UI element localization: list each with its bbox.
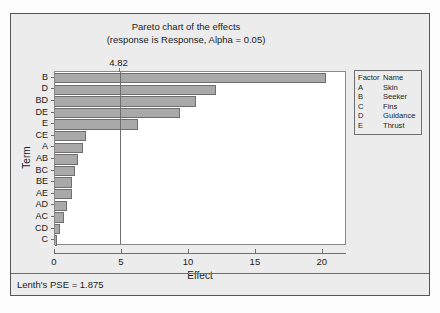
- chart-title: Pareto chart of the effects: [11, 20, 361, 33]
- legend-row-c: CFins: [355, 102, 421, 112]
- y-tick-label-a: A: [42, 141, 48, 151]
- legend-header-name: Name: [383, 73, 418, 83]
- bar-ab[interactable]: [55, 154, 78, 164]
- y-tick-label-c: C: [42, 234, 49, 244]
- x-tick-mark: [322, 249, 323, 253]
- bar-row: [55, 142, 345, 154]
- x-tick-mark: [188, 249, 189, 253]
- plot-area: [54, 71, 346, 245]
- y-tick-label-b: B: [42, 72, 48, 82]
- bars-layer: [55, 72, 345, 244]
- bar-row: [55, 165, 345, 177]
- bar-a[interactable]: [55, 143, 83, 153]
- legend-factor-code: B: [358, 92, 383, 102]
- bar-row: [55, 95, 345, 107]
- chart-subtitle: (response is Response, Alpha = 0.05): [11, 33, 361, 46]
- bar-row: [55, 107, 345, 119]
- bar-row: [55, 200, 345, 212]
- bar-ad[interactable]: [55, 201, 67, 211]
- legend-row-d: DGuidance: [355, 111, 421, 121]
- bar-row: [55, 153, 345, 165]
- bar-bd[interactable]: [55, 96, 196, 106]
- bar-row: [55, 234, 345, 246]
- bar-b[interactable]: [55, 73, 326, 83]
- legend-header-factor: Factor: [358, 73, 383, 83]
- legend-factor-name: Guidance: [383, 111, 418, 121]
- factor-legend: Factor Name ASkinBSeekerCFinsDGuidanceET…: [354, 70, 422, 135]
- y-tick-label-bc: BC: [35, 165, 48, 175]
- y-tick-label-ce: CE: [35, 130, 48, 140]
- bar-be[interactable]: [55, 177, 72, 187]
- y-tick-label-ab: AB: [36, 153, 48, 163]
- y-tick-label-bd: BD: [35, 95, 48, 105]
- bar-row: [55, 84, 345, 96]
- x-tick-mark: [255, 249, 256, 253]
- x-tick-label-0: 0: [51, 256, 56, 267]
- bar-bc[interactable]: [55, 166, 75, 176]
- bar-row: [55, 130, 345, 142]
- legend-factor-code: D: [358, 111, 383, 121]
- bar-ce[interactable]: [55, 131, 86, 141]
- y-axis-tick-group: BDBDDEECEAABBCBEAEADACCDC: [11, 71, 54, 245]
- legend-row-a: ASkin: [355, 83, 421, 93]
- y-tick-label-de: DE: [35, 107, 48, 117]
- bar-cd[interactable]: [55, 224, 60, 234]
- bar-d[interactable]: [55, 85, 216, 95]
- legend-factor-name: Fins: [383, 102, 418, 112]
- legend-row-group: ASkinBSeekerCFinsDGuidanceEThrust: [355, 83, 421, 131]
- legend-factor-code: A: [358, 83, 383, 93]
- bar-row: [55, 72, 345, 84]
- bar-row: [55, 176, 345, 188]
- bar-row: [55, 223, 345, 235]
- legend-factor-name: Thrust: [383, 121, 418, 131]
- bar-ac[interactable]: [55, 212, 64, 222]
- reference-line-tick: [119, 68, 120, 72]
- x-tick-label-10: 10: [183, 256, 194, 267]
- y-tick-label-be: BE: [36, 176, 48, 186]
- bar-e[interactable]: [55, 119, 138, 129]
- legend-factor-name: Skin: [383, 83, 418, 93]
- y-tick-label-ad: AD: [35, 199, 48, 209]
- x-tick-mark: [54, 249, 55, 253]
- chart-screenshot: Pareto chart of the effects (response is…: [0, 0, 440, 313]
- x-tick-mark: [121, 249, 122, 253]
- x-tick-label-15: 15: [250, 256, 261, 267]
- y-tick-label-e: E: [42, 118, 48, 128]
- legend-factor-code: C: [358, 102, 383, 112]
- legend-row-b: BSeeker: [355, 92, 421, 102]
- y-tick-label-ae: AE: [36, 188, 48, 198]
- x-axis-line: [54, 253, 346, 254]
- y-tick-label-cd: CD: [35, 223, 48, 233]
- y-tick-label-ac: AC: [35, 211, 48, 221]
- legend-factor-name: Seeker: [383, 92, 418, 102]
- footer-bar: Lenth's PSE = 1.875: [11, 273, 429, 295]
- legend-header-row: Factor Name: [355, 73, 421, 83]
- bar-row: [55, 118, 345, 130]
- bar-c[interactable]: [55, 235, 57, 245]
- legend-row-e: EThrust: [355, 121, 421, 131]
- legend-factor-code: E: [358, 121, 383, 131]
- bar-row: [55, 188, 345, 200]
- reference-line: [120, 72, 121, 244]
- bar-de[interactable]: [55, 108, 180, 118]
- pareto-chart-panel: Pareto chart of the effects (response is…: [10, 13, 430, 296]
- bar-row: [55, 211, 345, 223]
- lenths-pse-text: Lenth's PSE = 1.875: [17, 279, 104, 290]
- x-tick-label-5: 5: [118, 256, 123, 267]
- x-tick-label-20: 20: [317, 256, 328, 267]
- reference-line-label: 4.82: [109, 57, 128, 68]
- chart-title-block: Pareto chart of the effects (response is…: [11, 20, 361, 46]
- bar-ae[interactable]: [55, 189, 72, 199]
- y-tick-label-d: D: [42, 83, 49, 93]
